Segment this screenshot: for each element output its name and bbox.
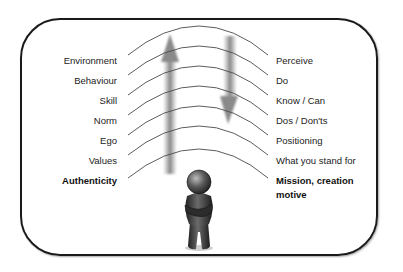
- right-label-perceive: Perceive: [276, 55, 313, 67]
- left-label-values: Values: [89, 155, 117, 167]
- right-label-dos-donts: Dos / Don'ts: [276, 115, 327, 127]
- left-label-environment: Environment: [64, 55, 117, 67]
- up-arrow-icon: [161, 34, 179, 174]
- left-label-authenticity: Authenticity: [62, 175, 117, 187]
- arc-layers: [0, 0, 403, 272]
- left-label-norm: Norm: [94, 115, 117, 127]
- right-label-what-you-stand-for: What you stand for: [276, 155, 356, 167]
- left-label-ego: Ego: [100, 135, 117, 147]
- layer-arcs: [128, 26, 268, 178]
- right-label-positioning: Positioning: [276, 135, 322, 147]
- right-label-know-can: Know / Can: [276, 95, 325, 107]
- left-label-skill: Skill: [100, 95, 117, 107]
- right-label-do: Do: [276, 75, 288, 87]
- left-label-behaviour: Behaviour: [74, 75, 117, 87]
- person-figure-icon: [185, 170, 213, 251]
- right-label-mission-line1: Mission, creation: [276, 175, 354, 187]
- right-label-mission-line2: motive: [276, 189, 307, 201]
